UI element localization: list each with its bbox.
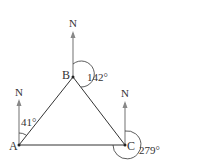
point-a (18, 144, 21, 147)
label-a: A (9, 139, 18, 153)
triangle (19, 77, 125, 145)
north-line-c: N (121, 87, 129, 145)
bearing-b: 142° (87, 71, 108, 83)
bearing-diagram: N N N A B C 41° 142° 279° (0, 0, 203, 167)
point-b (72, 76, 75, 79)
north-label-c: N (121, 87, 129, 99)
angle-arc-a (19, 133, 26, 135)
label-b: B (62, 68, 70, 82)
label-c: C (127, 139, 135, 153)
bearing-a: 41° (21, 116, 36, 128)
north-line-b: N (69, 17, 77, 77)
north-label-a: N (15, 86, 23, 98)
bearing-c: 279° (139, 144, 160, 156)
north-label-b: N (69, 17, 77, 29)
